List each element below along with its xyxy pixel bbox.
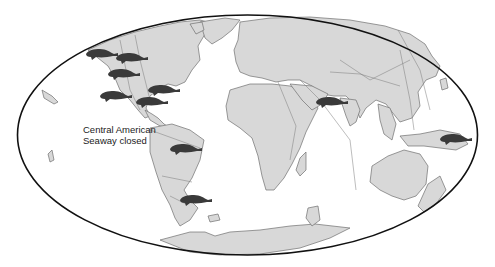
world-map [0, 0, 495, 267]
annotation-line-1: Central American [83, 124, 156, 135]
annotation-line-2: Seaway closed [83, 135, 156, 146]
seaway-annotation: Central American Seaway closed [83, 124, 156, 146]
